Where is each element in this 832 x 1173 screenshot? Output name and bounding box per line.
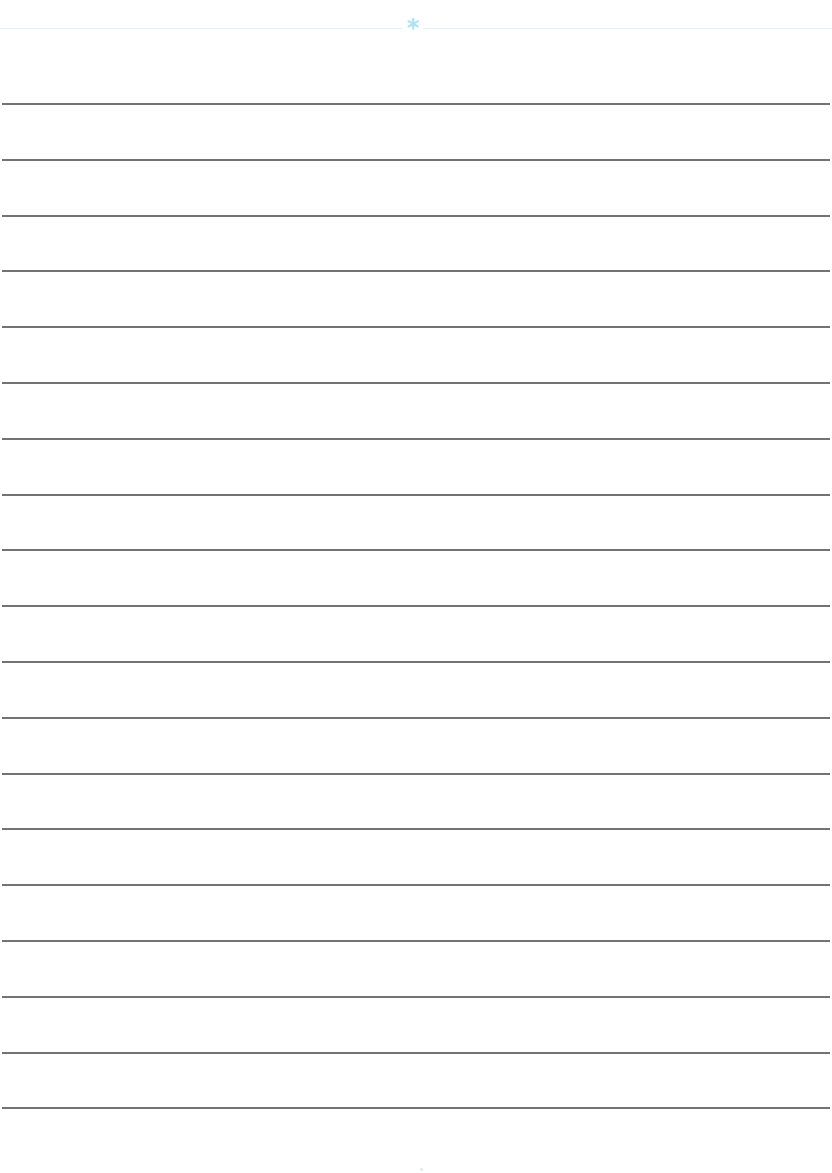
footer-mark xyxy=(420,1168,423,1171)
ruled-line xyxy=(2,1052,830,1054)
ruled-line xyxy=(2,382,830,384)
ruled-line xyxy=(2,996,830,998)
ruled-line xyxy=(2,605,830,607)
ruled-line xyxy=(2,717,830,719)
ruled-line xyxy=(2,159,830,161)
ruled-line xyxy=(2,661,830,663)
ruled-line xyxy=(2,828,830,830)
ruled-line xyxy=(2,884,830,886)
ruled-line xyxy=(2,549,830,551)
ruled-line xyxy=(2,494,830,496)
ruled-line xyxy=(2,270,830,272)
ruled-line xyxy=(2,326,830,328)
ruled-line xyxy=(2,103,830,105)
ruled-lines xyxy=(0,0,832,1173)
ruled-line xyxy=(2,940,830,942)
lined-paper-page: * xyxy=(0,0,832,1173)
ruled-line xyxy=(2,215,830,217)
ruled-line xyxy=(2,1107,830,1109)
ruled-line xyxy=(2,438,830,440)
ruled-line xyxy=(2,773,830,775)
